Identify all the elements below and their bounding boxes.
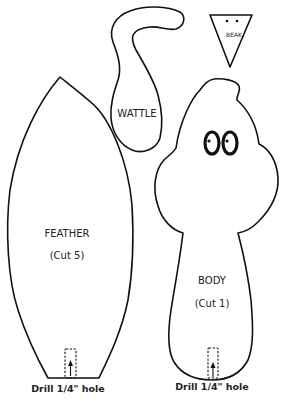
up-arrow-icon (68, 360, 73, 366)
right-eye (223, 132, 237, 154)
left-pupil (207, 139, 210, 142)
wattle-label: WATTLE (117, 108, 156, 119)
body-cut-count: (Cut 1) (195, 298, 230, 309)
pattern-sheet: BEAK WATTLE FEATHER (Cut 5) Drill 1/4" h… (0, 0, 283, 402)
feather-piece: FEATHER (Cut 5) Drill 1/4" hole (8, 77, 133, 394)
body-label: BODY (198, 275, 227, 286)
feather-label: FEATHER (44, 228, 89, 239)
wattle-piece: WATTLE (111, 7, 184, 152)
feather-cut-count: (Cut 5) (50, 250, 85, 261)
beak-piece: BEAK (210, 15, 252, 67)
right-pupil (225, 139, 228, 142)
feather-drill-note: Drill 1/4" hole (31, 383, 105, 394)
wattle-outline (111, 7, 184, 152)
body-drill-note: Drill 1/4" hole (175, 381, 249, 392)
body-piece: BODY (Cut 1) Drill 1/4" hole (155, 79, 278, 392)
left-eye (205, 132, 219, 154)
beak-label: BEAK (226, 31, 243, 38)
up-arrow-icon (211, 362, 216, 368)
beak-outline (210, 15, 252, 67)
beak-hole-dot (226, 20, 229, 23)
beak-hole-dot (236, 20, 239, 23)
pattern-drawing: BEAK WATTLE FEATHER (Cut 5) Drill 1/4" h… (0, 0, 283, 402)
body-outline (155, 79, 278, 380)
